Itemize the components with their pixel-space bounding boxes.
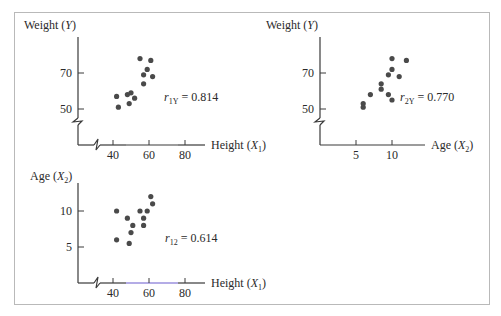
data-point: [128, 90, 133, 95]
data-point: [130, 223, 135, 228]
data-point: [379, 87, 384, 92]
data-point: [137, 56, 142, 61]
plot3-chart: 406080510Age (X2)Height (X1)r12 = 0.614: [30, 169, 266, 300]
x-tick-label: 60: [143, 148, 155, 162]
data-point: [127, 241, 132, 246]
data-point: [404, 58, 409, 63]
y-tick-label: 5: [66, 240, 72, 254]
data-point: [145, 208, 150, 213]
data-point: [361, 105, 366, 110]
scatter-plots: 4060805070Weight (Y)Height (X1)r1Y = 0.8…: [0, 0, 501, 316]
data-point: [141, 81, 146, 86]
data-point: [368, 92, 373, 97]
data-point: [150, 201, 155, 206]
y-tick-label: 70: [60, 66, 72, 80]
data-point: [132, 96, 137, 101]
data-point: [137, 208, 142, 213]
data-point: [148, 194, 153, 199]
data-point: [125, 216, 130, 221]
data-point: [379, 81, 384, 86]
data-point: [148, 58, 153, 63]
y-tick-label: 50: [302, 102, 314, 116]
x-tick-label: 10: [386, 148, 398, 162]
x-tick-label: 80: [179, 286, 191, 300]
data-point: [150, 74, 155, 79]
y-axis-label: Weight (Y): [266, 18, 318, 32]
data-point: [114, 94, 119, 99]
data-point: [141, 216, 146, 221]
x-tick-label: 80: [179, 148, 191, 162]
y-tick-label: 50: [60, 102, 72, 116]
correlation-label: r1Y = 0.814: [164, 90, 218, 106]
plot1-chart: 4060805070Weight (Y)Height (X1)r1Y = 0.8…: [24, 18, 266, 162]
data-point: [145, 67, 150, 72]
x-tick-label: 40: [107, 286, 119, 300]
x-axis-label: Height (X1): [211, 138, 266, 154]
data-point: [386, 92, 391, 97]
data-point: [389, 97, 394, 102]
data-point: [386, 72, 391, 77]
x-axis-label: Age (X2): [431, 138, 473, 154]
y-axis-label: Age (X2): [30, 169, 72, 185]
x-axis-label: Height (X1): [211, 276, 266, 292]
data-point: [114, 237, 119, 242]
correlation-label: r2Y = 0.770: [400, 90, 454, 106]
x-tick-label: 60: [143, 286, 155, 300]
y-axis-label: Weight (Y): [24, 18, 76, 32]
data-point: [116, 105, 121, 110]
data-point: [127, 101, 132, 106]
data-point: [389, 67, 394, 72]
x-tick-label: 5: [353, 148, 359, 162]
plot2-chart: 5105070Weight (Y)Age (X2)r2Y = 0.770: [266, 18, 473, 162]
data-point: [397, 74, 402, 79]
data-point: [114, 208, 119, 213]
y-tick-label: 10: [60, 204, 72, 218]
data-point: [128, 230, 133, 235]
data-point: [141, 72, 146, 77]
data-point: [141, 223, 146, 228]
data-point: [389, 56, 394, 61]
correlation-label: r12 = 0.614: [165, 231, 217, 247]
x-tick-label: 40: [107, 148, 119, 162]
y-tick-label: 70: [302, 66, 314, 80]
